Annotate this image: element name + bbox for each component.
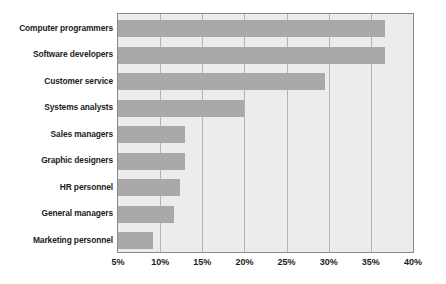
bar	[118, 206, 174, 223]
x-tick-label: 15%	[182, 256, 222, 268]
category-label: Systems analysts	[0, 102, 113, 112]
bar	[118, 153, 185, 170]
category-label: Computer programmers	[0, 23, 113, 33]
category-label: Graphic designers	[0, 155, 113, 165]
category-label: HR personnel	[0, 182, 113, 192]
x-tick-label: 35%	[351, 256, 391, 268]
bar	[118, 73, 325, 90]
bar-chart: Computer programmersSoftware developersC…	[0, 0, 446, 284]
category-label: General managers	[0, 208, 113, 218]
bar	[118, 179, 180, 196]
x-tick-label: 40%	[393, 256, 433, 268]
bar	[118, 100, 244, 117]
x-tick-label: 30%	[309, 256, 349, 268]
bar	[118, 232, 153, 249]
bar	[118, 20, 385, 37]
x-tick-label: 25%	[267, 256, 307, 268]
x-tick-label: 5%	[98, 256, 138, 268]
value-axis: 5%10%15%20%25%30%35%40%	[0, 256, 446, 274]
category-label: Marketing personnel	[0, 235, 113, 245]
bar	[118, 47, 385, 64]
category-label: Customer service	[0, 76, 113, 86]
x-tick-label: 20%	[224, 256, 264, 268]
plot-area	[117, 13, 414, 253]
x-tick-label: 10%	[140, 256, 180, 268]
bar	[118, 126, 185, 143]
gridline	[413, 14, 414, 252]
category-axis: Computer programmersSoftware developersC…	[0, 13, 113, 253]
category-label: Software developers	[0, 49, 113, 59]
category-label: Sales managers	[0, 129, 113, 139]
